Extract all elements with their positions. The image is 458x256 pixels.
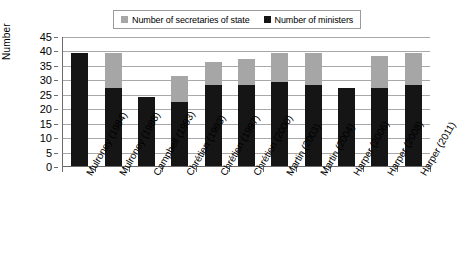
y-axis-tick-mark <box>54 66 58 67</box>
y-axis-tick-mark <box>54 80 58 81</box>
bar-segment-secretaries-of-state <box>271 53 288 82</box>
y-axis-tick-label: 30 <box>40 75 52 86</box>
bar-segment-ministers <box>71 53 88 166</box>
x-axis-labels: Mulroney (1984)Mulroney (1988)Campbell (… <box>62 172 430 256</box>
y-axis-tick-mark <box>54 37 58 38</box>
bar-segment-secretaries-of-state <box>405 53 422 85</box>
y-axis-tick-label: 0 <box>46 162 52 173</box>
y-axis-tick-mark <box>54 109 58 110</box>
bar-segment-secretaries-of-state <box>371 56 388 88</box>
y-axis-tick-label: 35 <box>40 60 52 71</box>
y-axis-labels: 454035302520151050 <box>20 37 58 167</box>
y-axis-tick-mark <box>54 153 58 154</box>
y-axis-tick-label: 15 <box>40 118 52 129</box>
legend-swatch-ministers <box>264 16 271 23</box>
bar-segment-secretaries-of-state <box>305 53 322 85</box>
bar-segment-secretaries-of-state <box>105 53 122 88</box>
y-axis-tick-mark <box>54 51 58 52</box>
legend-item-secretaries-of-state: Number of secretaries of state <box>121 15 250 25</box>
bar-segment-secretaries-of-state <box>205 62 222 85</box>
legend-label-secretaries-of-state: Number of secretaries of state <box>132 15 250 25</box>
bar-segment-secretaries-of-state <box>171 76 188 102</box>
y-axis-tick-mark <box>54 138 58 139</box>
bar-segment-secretaries-of-state <box>238 59 255 85</box>
y-axis-tick-label: 25 <box>40 89 52 100</box>
chart-legend: Number of secretaries of state Number of… <box>113 10 361 29</box>
y-axis-tick-mark <box>54 124 58 125</box>
y-axis-tick-label: 40 <box>40 46 52 57</box>
y-axis-tick-label: 45 <box>40 32 52 43</box>
bar-slot <box>63 37 96 166</box>
y-axis-title: Number <box>1 2 12 82</box>
bar-stack[interactable] <box>71 37 88 166</box>
legend-label-ministers: Number of ministers <box>275 15 354 25</box>
y-axis-tick-mark <box>54 95 58 96</box>
legend-item-ministers: Number of ministers <box>264 15 354 25</box>
y-axis-tick-label: 10 <box>40 133 52 144</box>
y-axis-tick-label: 5 <box>46 147 52 158</box>
y-axis-tick-mark <box>54 167 58 168</box>
legend-swatch-secretaries-of-state <box>121 16 128 23</box>
y-axis-tick-label: 20 <box>40 104 52 115</box>
